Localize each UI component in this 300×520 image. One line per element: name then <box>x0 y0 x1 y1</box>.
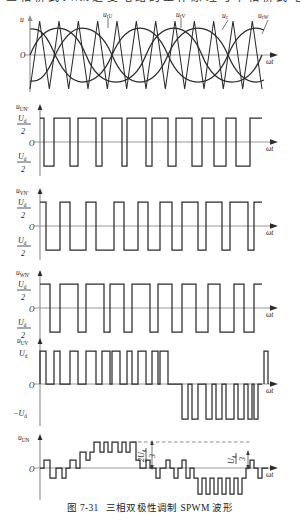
label-uc: uc <box>222 12 229 30</box>
level-label-negative-ud-over-2: Ud 2 <box>17 236 31 258</box>
two-thirds-ud-numerator: 2Ud <box>137 449 147 462</box>
y-axis-arrow <box>38 188 43 194</box>
figure-caption: 图 7-31三相双极性调制 SPWM 波形 <box>0 500 300 514</box>
y-axis-arrow <box>38 338 43 344</box>
panel-u-UN: uUN O ωt 2Ud 3 <box>0 432 300 504</box>
svg-text:Ud: Ud <box>18 280 27 290</box>
figure-caption-text: 三相双极性调制 SPWM 波形 <box>106 503 233 513</box>
figure-page: 三 相 桥 式 PWM 逆 变 电 路 的 工 作 原 理 与 单 相 桥 式 … <box>0 0 300 520</box>
level-label-positive-ud: Ud <box>19 349 28 359</box>
urW-sub: rW <box>262 14 269 20</box>
u-UN-xlabel: ωt <box>266 470 274 479</box>
level-label-positive-ud-over-2: Ud 2 <box>17 198 31 220</box>
figure-caption-number: 图 7-31 <box>67 503 99 513</box>
panel-carrier-modulation: u O ωt urU urV <box>0 12 300 96</box>
u-VN-prime-origin: O <box>29 223 35 232</box>
cut-off-header-text-content: 三 相 桥 式 PWM 逆 变 电 路 的 工 作 原 理 与 单 相 桥 式 … <box>6 0 300 4</box>
urV-sub: rV <box>180 13 186 19</box>
svg-text:Ud: Ud <box>18 152 27 162</box>
svg-text:urU: urU <box>103 12 113 19</box>
u-WN-prime-xlabel: ωt <box>266 310 274 319</box>
u-WN-prime-origin: O <box>29 305 35 314</box>
u-UN-prime-xlabel: ωt <box>266 144 274 153</box>
u-UV-waveform-negative <box>176 384 262 419</box>
level-label-positive-ud-over-2: Ud 2 <box>17 280 31 302</box>
u-UV-y-label: uUV <box>17 336 29 346</box>
u-UN-prime-origin: O <box>29 139 35 148</box>
panel1-origin-label: O <box>20 51 26 60</box>
urU-sub: rU <box>107 13 113 19</box>
y-axis-arrow <box>38 104 43 110</box>
uc-sub: c <box>226 14 229 20</box>
u-VN-prime-xlabel: ωt <box>266 228 274 237</box>
panel-u-VN-prime: uVN' O ωt Ud 2 Ud 2 <box>0 184 300 266</box>
u-UN-prime-y-label: uUN' <box>16 102 28 112</box>
svg-text:2: 2 <box>21 293 25 302</box>
u-VN-prime-y-label: uVN' <box>16 186 28 196</box>
svg-text:urV: urV <box>176 12 186 19</box>
panel1-y-label: u <box>20 15 24 24</box>
svg-text:uc: uc <box>222 12 229 20</box>
u-VN-prime-svg: uVN' O ωt Ud 2 Ud 2 <box>0 184 300 266</box>
u-UN-prime-svg: uUN' O ωt Ud 2 Ud 2 <box>0 100 300 182</box>
label-urU: urU <box>103 12 113 28</box>
carrier-modulation-svg: u O ωt urU urV <box>0 12 300 96</box>
u-UV-origin: O <box>29 381 35 390</box>
y-axis-arrow <box>28 15 33 21</box>
svg-text:urW: urW <box>258 12 269 20</box>
u-UV-waveform-positive <box>40 351 176 384</box>
u-WN-prime-y-label: uWN' <box>16 268 30 278</box>
svg-text:Ud: Ud <box>18 236 27 246</box>
svg-text:2: 2 <box>21 211 25 220</box>
svg-text:Ud: Ud <box>18 114 27 124</box>
svg-text:Ud: Ud <box>18 198 27 208</box>
u-UN-y-label: uUN <box>18 433 30 443</box>
u-UV-xlabel: ωt <box>266 386 274 395</box>
u-UV-waveform-trailing <box>264 351 268 384</box>
cut-off-header-text: 三 相 桥 式 PWM 逆 变 电 路 的 工 作 原 理 与 单 相 桥 式 … <box>0 0 300 11</box>
level-label-positive-ud-over-2: Ud 2 <box>17 114 31 136</box>
two-thirds-ud-denominator: 3 <box>148 454 157 459</box>
svg-text:Ud: Ud <box>18 318 27 328</box>
panel-u-UV: uUV O ωt Ud −Ud <box>0 334 300 434</box>
panel1-xaxis-label: ωt <box>266 57 274 66</box>
u-UN-svg: uUN O ωt 2Ud 3 <box>0 432 300 504</box>
level-label-negative-ud-over-2: Ud 2 <box>17 152 31 174</box>
one-third-ud-numerator: Ud <box>227 455 237 464</box>
svg-text:2: 2 <box>21 127 25 136</box>
label-urW: urW <box>258 12 269 34</box>
annotation-one-third-ud: Ud 3 <box>227 450 250 470</box>
one-third-ud-denominator: 3 <box>238 457 247 462</box>
label-urV: urV <box>176 12 186 28</box>
y-axis-arrow <box>38 434 43 440</box>
svg-text:2: 2 <box>21 249 25 258</box>
u-UV-svg: uUV O ωt Ud −Ud <box>0 334 300 434</box>
svg-text:2: 2 <box>21 165 25 174</box>
u-UN-origin: O <box>29 465 35 474</box>
panel-u-UN-prime: uUN' O ωt Ud 2 Ud 2 <box>0 100 300 182</box>
y-axis-arrow <box>38 270 43 276</box>
level-label-negative-ud: −Ud <box>13 409 27 419</box>
